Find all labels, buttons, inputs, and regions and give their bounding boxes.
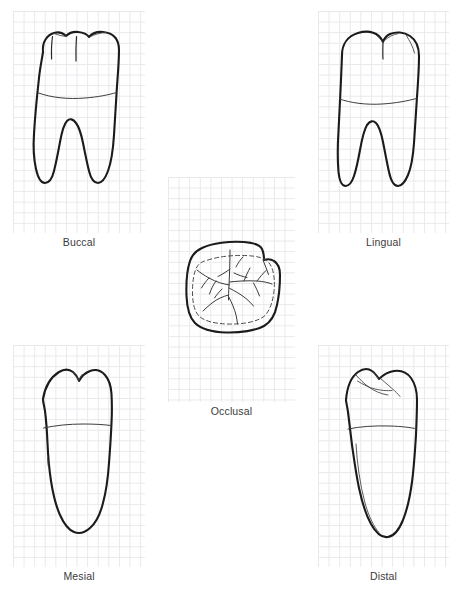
tooth-drawing-occlusal (168, 177, 295, 402)
occlusal-supplemental-groove-f (215, 289, 223, 298)
occlusal-supplemental-groove-c (244, 268, 250, 281)
panel-lingual: Lingual (318, 11, 449, 233)
mesial-crown-root-outline (43, 370, 112, 533)
occlusal-groove-distobuccal (230, 281, 273, 284)
panel-distal: Distal (318, 345, 449, 567)
tooth-drawing-mesial (13, 345, 145, 567)
buccal-developmental-groove-mesial (51, 37, 52, 60)
distal-cusp-tip-notch (373, 372, 379, 380)
lingual-crown-root-outline (338, 32, 419, 186)
caption-distal: Distal (318, 570, 449, 582)
occlusal-groove-lingual-1 (203, 295, 229, 311)
panel-occlusal: Occlusal (168, 177, 295, 402)
mesial-cej-line (44, 424, 112, 428)
distal-cej-line (348, 426, 416, 429)
occlusal-supplemental-groove-i (234, 273, 247, 278)
tooth-drawing-lingual (318, 11, 449, 233)
occlusal-central-fissure (229, 250, 231, 300)
occlusal-supplemental-groove-e (254, 283, 260, 296)
tooth-anatomy-figure: Buccal Lingual (0, 0, 458, 592)
caption-lingual: Lingual (318, 236, 449, 248)
occlusal-groove-lingual-2 (229, 297, 238, 324)
buccal-developmental-groove-central (76, 37, 77, 62)
occlusal-marginal-ridge-dashed (193, 255, 275, 324)
distal-occlusal-ridge-1 (356, 375, 388, 395)
panel-mesial: Mesial (13, 345, 145, 567)
occlusal-crown-outline (186, 242, 280, 333)
occlusal-supplemental-groove-g (236, 257, 243, 267)
lingual-cej-line (340, 99, 417, 105)
occlusal-supplemental-groove-b (202, 278, 210, 288)
occlusal-supplemental-groove-a (210, 281, 217, 294)
occlusal-supplemental-groove-d (257, 271, 266, 282)
panel-buccal: Buccal (13, 11, 145, 233)
buccal-cej-line (39, 93, 117, 99)
tooth-drawing-distal (318, 345, 449, 567)
occlusal-groove-distal-branch (229, 288, 254, 306)
tooth-drawing-buccal (13, 11, 145, 233)
occlusal-supplemental-groove-h (218, 269, 230, 277)
caption-occlusal: Occlusal (168, 405, 295, 417)
caption-buccal: Buccal (13, 236, 145, 248)
caption-mesial: Mesial (13, 570, 145, 582)
